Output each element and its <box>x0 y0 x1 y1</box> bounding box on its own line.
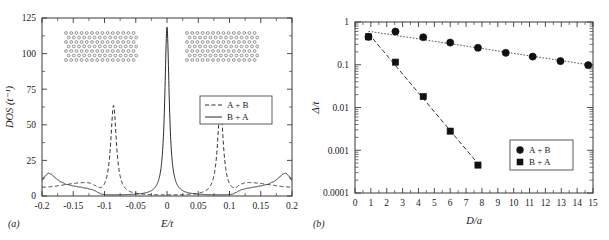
honeycomb-lattice-right <box>186 32 259 62</box>
panel-b-label: (b) <box>313 218 325 229</box>
data-point-square <box>420 93 426 99</box>
x-tick-label: 0 <box>353 198 358 208</box>
x-tick-label: 0.05 <box>190 201 207 211</box>
x-tick-label: -0.2 <box>34 201 49 211</box>
x-tick-label: -0.15 <box>63 201 83 211</box>
honeycomb-lattice-left <box>65 32 138 62</box>
x-tick-label: 0 <box>165 201 170 211</box>
legend-marker-square <box>517 159 523 165</box>
panel-b-x-axis-title: D/a <box>465 215 482 226</box>
x-tick-label: 11 <box>525 198 534 208</box>
x-tick-label: -0.1 <box>97 201 112 211</box>
x-tick-label: 4 <box>416 198 421 208</box>
legend-marker-circle <box>517 147 524 154</box>
x-tick-label: 3 <box>400 198 405 208</box>
legend-label: A + B <box>529 145 551 155</box>
y-tick-label: 0 <box>31 191 36 201</box>
data-point-circle <box>447 39 454 46</box>
legend-label: B + A <box>529 157 551 167</box>
x-tick-label: 0.15 <box>252 201 269 211</box>
panel-a-dos-plot: -0.2-0.15-0.1-0.0500.050.10.150.20255075… <box>0 0 305 240</box>
x-tick-label: 8 <box>480 198 485 208</box>
y-tick-label: 50 <box>27 120 37 130</box>
y-tick-label: 0.01 <box>332 103 349 113</box>
data-point-circle <box>585 62 592 69</box>
panel-a-label: (a) <box>8 218 20 229</box>
x-tick-label: 13 <box>557 198 567 208</box>
y-tick-label: 25 <box>27 156 37 166</box>
panel-a-y-axis-title: DOS (t⁻¹) <box>4 85 16 129</box>
svg-text:Δ/t: Δ/t <box>310 100 321 114</box>
panel-a-svg: -0.2-0.15-0.1-0.0500.050.10.150.20255075… <box>0 0 305 240</box>
data-point-circle <box>529 53 536 60</box>
panel-b-gap-scaling-plot: 012345678910111213141510.10.010.0010.000… <box>305 0 609 240</box>
y-tick-label: 100 <box>22 49 37 59</box>
y-tick-label: 125 <box>22 13 37 23</box>
x-tick-label: 14 <box>572 198 582 208</box>
panel-a-legend: A + BB + A <box>200 96 272 124</box>
x-tick-label: -0.05 <box>126 201 146 211</box>
y-tick-label: 0.1 <box>337 60 349 70</box>
data-point-square <box>475 162 481 168</box>
panel-b-svg: 012345678910111213141510.10.010.0010.000… <box>305 0 609 240</box>
x-tick-label: 15 <box>588 198 598 208</box>
legend-label: B + A <box>227 112 249 122</box>
x-tick-label: 0.2 <box>286 201 298 211</box>
x-tick-label: 1 <box>368 198 373 208</box>
data-point-circle <box>474 44 481 51</box>
data-point-circle <box>557 57 564 64</box>
data-point-square <box>365 34 371 40</box>
x-tick-label: 0.1 <box>224 201 236 211</box>
legend-label: A + B <box>227 100 249 110</box>
y-tick-label: 1 <box>344 17 349 27</box>
y-tick-label: 0.001 <box>328 146 350 156</box>
data-point-square <box>392 59 398 65</box>
x-tick-label: 6 <box>448 198 453 208</box>
x-tick-label: 10 <box>509 198 519 208</box>
svg-text:DOS (t⁻¹): DOS (t⁻¹) <box>4 85 16 129</box>
panel-b-axes: 012345678910111213141510.10.010.0010.000… <box>310 17 598 226</box>
data-point-circle <box>502 49 509 56</box>
data-point-circle <box>392 28 399 35</box>
data-point-square <box>447 128 453 134</box>
y-tick-label: 0.0001 <box>323 188 349 198</box>
panel-a-x-axis-title: E/t <box>160 218 174 229</box>
figure-container: -0.2-0.15-0.1-0.0500.050.10.150.20255075… <box>0 0 609 240</box>
data-point-circle <box>420 34 427 41</box>
x-tick-label: 7 <box>464 198 469 208</box>
x-tick-label: 5 <box>432 198 437 208</box>
x-tick-label: 12 <box>541 198 551 208</box>
panel-b-y-axis-title: Δ/t <box>310 100 321 114</box>
x-tick-label: 2 <box>384 198 389 208</box>
x-tick-label: 9 <box>495 198 500 208</box>
y-tick-label: 75 <box>27 85 37 95</box>
panel-b-legend: A + BB + A <box>510 140 573 170</box>
